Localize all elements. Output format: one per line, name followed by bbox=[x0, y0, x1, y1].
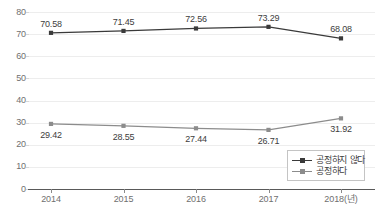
data-point-label: 72.56 bbox=[185, 14, 207, 24]
legend-item[interactable]: 공정하다 bbox=[292, 166, 360, 176]
legend-swatch-icon bbox=[292, 156, 312, 164]
line-chart: 80706050403020100 20142015201620172018(년… bbox=[0, 0, 378, 215]
x-axis-tick-label: 2016 bbox=[186, 194, 206, 204]
data-point-label: 28.55 bbox=[113, 132, 135, 142]
data-point-label: 70.58 bbox=[40, 19, 62, 29]
data-point-label: 26.71 bbox=[258, 136, 280, 146]
data-point-label: 31.92 bbox=[330, 124, 352, 134]
legend-item-label: 공정하지 않다 bbox=[316, 155, 365, 165]
data-point-label: 27.44 bbox=[185, 134, 207, 144]
y-axis-tick-mark bbox=[26, 78, 29, 79]
x-axis-line bbox=[28, 189, 375, 190]
y-axis-tick-label: 0 bbox=[2, 185, 26, 194]
x-axis-tick-mark bbox=[124, 189, 125, 193]
y-axis-tick-mark bbox=[26, 101, 29, 102]
legend-item[interactable]: 공정하지 않다 bbox=[292, 155, 360, 165]
data-point-label: 71.45 bbox=[113, 17, 135, 27]
y-axis: 80706050403020100 bbox=[0, 0, 26, 215]
x-axis-tick-mark bbox=[196, 189, 197, 193]
gridline bbox=[28, 145, 375, 146]
gridline bbox=[28, 101, 375, 102]
x-axis-tick-label: 2015 bbox=[114, 194, 134, 204]
y-axis-tick-label: 30 bbox=[2, 118, 26, 127]
gridline bbox=[28, 123, 375, 124]
x-axis-tick-label: 2017 bbox=[259, 194, 279, 204]
gridline bbox=[28, 34, 375, 35]
chart-legend: 공정하지 않다공정하다 bbox=[287, 150, 365, 181]
legend-swatch-icon bbox=[292, 167, 312, 175]
y-axis-tick-label: 80 bbox=[2, 8, 26, 17]
data-point-label: 68.08 bbox=[330, 24, 352, 34]
y-axis-tick-mark bbox=[26, 56, 29, 57]
x-axis-tick-label: 2018(년) bbox=[324, 194, 357, 204]
y-axis-tick-label: 10 bbox=[2, 162, 26, 171]
gridline bbox=[28, 56, 375, 57]
x-axis-tick-label: 2014 bbox=[41, 194, 61, 204]
y-axis-tick-label: 40 bbox=[2, 96, 26, 105]
gridline bbox=[28, 78, 375, 79]
y-axis-tick-label: 50 bbox=[2, 74, 26, 83]
x-axis-tick-mark bbox=[269, 189, 270, 193]
legend-item-label: 공정하다 bbox=[316, 166, 347, 176]
x-axis-tick-mark bbox=[341, 189, 342, 193]
x-axis-tick-mark bbox=[51, 189, 52, 193]
y-axis-tick-mark bbox=[26, 145, 29, 146]
y-axis-tick-mark bbox=[26, 12, 29, 13]
data-point-label: 29.42 bbox=[40, 130, 62, 140]
y-axis-tick-mark bbox=[26, 34, 29, 35]
y-axis-tick-mark bbox=[26, 123, 29, 124]
data-point-label: 73.29 bbox=[258, 13, 280, 23]
y-axis-tick-label: 20 bbox=[2, 140, 26, 149]
y-axis-tick-label: 70 bbox=[2, 30, 26, 39]
y-axis-tick-label: 60 bbox=[2, 52, 26, 61]
gridline bbox=[28, 12, 375, 13]
y-axis-tick-mark bbox=[26, 167, 29, 168]
